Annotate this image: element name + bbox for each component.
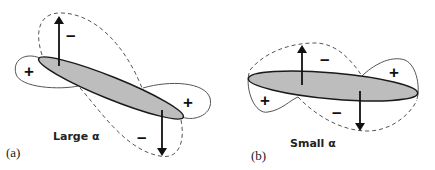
panel-b: + + – – Small α (b) [247,43,419,163]
caption-small-alpha: Small α [290,137,336,150]
panel-label-a: (a) [6,145,20,160]
caption-large-alpha: Large α [53,130,100,143]
plus-sign-right-b: + [389,63,399,82]
plus-sign-left-a: + [24,62,34,81]
plus-sign-left-b: + [260,91,270,110]
diagram-canvas: + + – – Large α (a) + + – – Small α (b) [0,0,435,170]
minus-sign-upper-a: – [66,26,75,45]
minus-sign-upper-b: – [320,50,329,69]
minus-sign-lower-a: – [137,128,146,147]
minus-sign-lower-b: – [332,103,341,122]
plus-sign-right-a: + [183,93,193,112]
panel-a: + + – – Large α (a) [6,13,211,160]
panel-label-b: (b) [251,148,266,163]
